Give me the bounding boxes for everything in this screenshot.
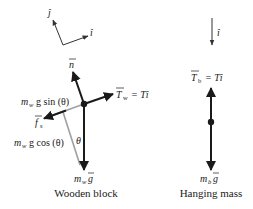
- free-body-diagrams: ĵ î n T w = Tî m w g sin (θ): [0, 0, 253, 209]
- gravity-label: m w g: [74, 173, 94, 185]
- friction-label: f s: [35, 116, 43, 129]
- svg-text:w: w: [82, 178, 87, 185]
- tension-label: T w = Tî: [116, 88, 150, 101]
- j-axis-arrow: [53, 20, 63, 45]
- normal-force-label: n: [69, 59, 76, 70]
- svg-text:f: f: [35, 117, 39, 128]
- hanging-mass-diagram: î T b = Tî m b g Hanging mass: [180, 18, 243, 199]
- i-hat-label: î: [90, 27, 94, 38]
- j-hat-label: ĵ: [46, 7, 52, 18]
- parallel-component-label: m w g sin (θ): [21, 96, 69, 108]
- i-axis-arrow: [63, 36, 88, 45]
- wooden-block-diagram: n T w = Tî m w g sin (θ) f s m w g cos (…: [14, 59, 150, 199]
- svg-text:g sin (θ): g sin (θ): [36, 96, 69, 108]
- svg-text:w: w: [22, 142, 27, 149]
- svg-text:b: b: [208, 178, 212, 185]
- hanging-tension-label: T b = Tî: [191, 71, 224, 84]
- hanging-gravity-label: m b g: [200, 173, 219, 185]
- svg-text:b: b: [198, 77, 201, 84]
- svg-text:g cos (θ): g cos (θ): [29, 137, 64, 149]
- svg-text:m: m: [74, 173, 81, 184]
- hanging-axis-label: î: [217, 27, 221, 38]
- svg-text:w: w: [123, 94, 128, 101]
- svg-text:m: m: [200, 173, 207, 184]
- svg-text:w: w: [29, 101, 34, 108]
- svg-text:s: s: [40, 122, 43, 129]
- coordinate-axes: ĵ î: [46, 7, 94, 45]
- friction-arrow: [44, 111, 66, 119]
- svg-text:g: g: [213, 173, 218, 184]
- svg-text:g: g: [88, 173, 93, 184]
- svg-text:= Tî: = Tî: [205, 72, 224, 83]
- svg-text:m: m: [14, 137, 21, 148]
- wooden-block-title: Wooden block: [54, 187, 118, 199]
- hanging-mass-title: Hanging mass: [180, 187, 243, 199]
- perpendicular-component-label: m w g cos (θ): [14, 137, 64, 149]
- svg-text:T: T: [191, 72, 198, 83]
- normal-force-arrow: [73, 72, 84, 104]
- svg-text:= Tî: = Tî: [131, 89, 150, 100]
- hanging-mass-dot: [208, 119, 214, 125]
- svg-text:m: m: [21, 96, 28, 107]
- tension-arrow: [84, 94, 113, 104]
- block-center-dot: [81, 101, 87, 107]
- theta-label: θ: [76, 135, 81, 146]
- svg-text:n: n: [69, 59, 74, 70]
- svg-text:T: T: [116, 89, 123, 100]
